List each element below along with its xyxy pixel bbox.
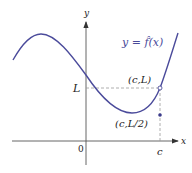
x-axis-label: x [181,136,186,146]
open-point-label: (c,L) [128,74,151,85]
function-label: y = f̂(x) [121,36,163,49]
function-graph: y x 0 L c (c,L) (c,L/2) y = f̂(x) [0,0,192,173]
L-tick-label: L [72,82,80,95]
y-axis-label: y [83,8,90,18]
filled-point-c-L2 [158,113,162,117]
c-tick-label: c [157,146,163,157]
filled-point-label: (c,L/2) [115,118,148,129]
open-point-c-L [158,86,162,90]
origin-label: 0 [78,144,84,154]
